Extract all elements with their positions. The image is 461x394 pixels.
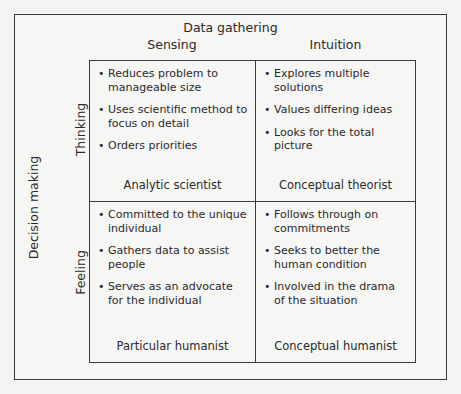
bullet-icon: • [98,208,105,222]
list-item: •Committed to the unique individual [96,208,249,235]
quadrant-traits-list: •Explores multiple solutions •Values dif… [262,67,409,153]
bullet-icon: • [98,244,105,258]
quadrant-traits-list: •Follows through on commitments •Seeks t… [262,208,409,307]
quadrant-conceptual-theorist: •Explores multiple solutions •Values dif… [256,61,415,202]
list-item: •Explores multiple solutions [262,67,409,94]
row-label-thinking: Thinking [73,90,88,170]
column-label-intuition: Intuition [255,37,416,52]
row-label-feeling: Feeling [73,233,88,313]
list-item: •Values differing ideas [262,103,409,117]
list-item: •Reduces problem to manageable size [96,67,249,94]
quadrant-traits-list: •Reduces problem to manageable size •Use… [96,67,249,153]
quadrant-analytic-scientist: •Reduces problem to manageable size •Use… [90,61,256,202]
quadrant-grid: •Reduces problem to manageable size •Use… [89,60,416,363]
bullet-icon: • [98,103,105,117]
bullet-icon: • [98,280,105,294]
quadrant-title: Conceptual humanist [256,339,415,353]
quadrant-particular-humanist: •Committed to the unique individual •Gat… [90,202,256,362]
quadrant-conceptual-humanist: •Follows through on commitments •Seeks t… [256,202,415,362]
list-item: •Follows through on commitments [262,208,409,235]
list-item: •Orders priorities [96,139,249,153]
bullet-icon: • [264,126,271,140]
quadrant-title: Analytic scientist [90,178,255,192]
bullet-icon: • [98,139,105,153]
list-item: •Gathers data to assist people [96,244,249,271]
list-item: •Uses scientific method to focus on deta… [96,103,249,130]
bullet-icon: • [264,244,271,258]
quadrant-traits-list: •Committed to the unique individual •Gat… [96,208,249,307]
quadrant-title: Conceptual theorist [256,178,415,192]
side-title-decision-making: Decision making [26,148,41,268]
bullet-icon: • [264,280,271,294]
bullet-icon: • [98,67,105,81]
bullet-icon: • [264,208,271,222]
bullet-icon: • [264,67,271,81]
list-item: •Serves as an advocate for the individua… [96,280,249,307]
bullet-icon: • [264,103,271,117]
list-item: •Seeks to better the human condition [262,244,409,271]
quadrant-title: Particular humanist [90,339,255,353]
column-label-sensing: Sensing [89,37,255,52]
list-item: •Involved in the drama of the situation [262,280,409,307]
diagram-title: Data gathering [0,20,461,35]
list-item: •Looks for the total picture [262,126,409,153]
